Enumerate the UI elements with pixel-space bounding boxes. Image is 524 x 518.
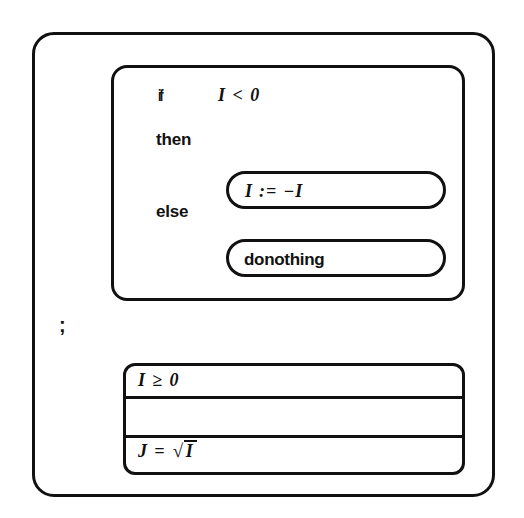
assignment-text: J = √I (138, 440, 195, 462)
if-keyword: if (158, 86, 162, 106)
else-keyword: else (156, 202, 188, 222)
assignment-row: J = √I (126, 438, 462, 472)
if-condition-text: I < 0 (218, 85, 261, 106)
radicand-text: I (185, 441, 195, 462)
statement-separator-semicolon: ; (59, 315, 66, 335)
assertion-assignment-block: I ≥ 0 J = √I (123, 363, 465, 475)
assignment-lhs: J = (138, 441, 172, 461)
assertion-row: I ≥ 0 (126, 366, 462, 399)
then-statement-pill: I := −I (226, 171, 446, 209)
diagram-canvas: if I < 0 then else I := −I donothing ; I… (0, 0, 524, 518)
then-statement-text: I := −I (245, 181, 304, 202)
radical-icon: √ (173, 440, 185, 461)
square-root-expression: √I (172, 440, 195, 462)
if-then-else-block: if I < 0 then else I := −I donothing (111, 65, 465, 301)
assertion-text: I ≥ 0 (138, 370, 180, 391)
else-statement-pill: donothing (226, 239, 446, 277)
outer-program-frame: if I < 0 then else I := −I donothing ; I… (32, 32, 495, 497)
blank-row (126, 399, 462, 438)
then-keyword: then (156, 130, 191, 150)
else-statement-text: donothing (244, 250, 324, 270)
